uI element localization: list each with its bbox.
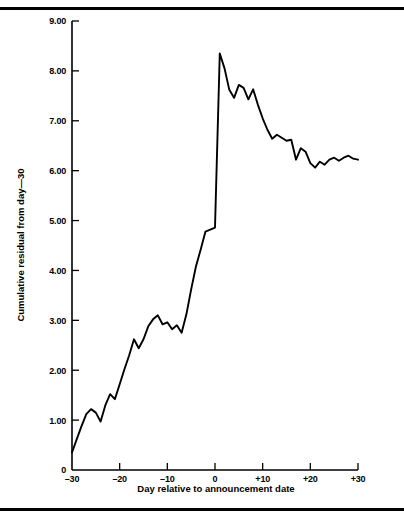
y-tick-label: 5.00 <box>49 216 66 226</box>
y-axis-ticks <box>72 21 79 420</box>
y-tick-label: 4.00 <box>49 266 66 276</box>
x-tick-label: +30 <box>351 474 366 484</box>
x-axis-ticks <box>120 463 358 470</box>
y-tick-label: 8.00 <box>49 66 66 76</box>
y-tick-label: 3.00 <box>49 316 66 326</box>
chart-plot-area: 01.002.003.004.005.006.007.008.009.00 –3… <box>0 0 404 500</box>
y-tick-label: 7.00 <box>49 116 66 126</box>
x-tick-label: –20 <box>112 474 127 484</box>
x-tick-label: –30 <box>65 474 80 484</box>
x-axis-title: Day relative to announcement date <box>137 483 294 494</box>
y-axis-title: Cumulative residual from day—30 <box>15 168 26 321</box>
y-tick-label: 9.00 <box>49 16 66 26</box>
data-series-line <box>72 53 358 452</box>
figure-container: 01.002.003.004.005.006.007.008.009.00 –3… <box>0 0 404 520</box>
y-axis: 01.002.003.004.005.006.007.008.009.00 <box>49 16 79 475</box>
bottom-horizontal-rule <box>0 508 404 511</box>
x-tick-label: +20 <box>303 474 318 484</box>
y-tick-label: 2.00 <box>49 366 66 376</box>
y-tick-label: 6.00 <box>49 166 66 176</box>
y-tick-label: 1.00 <box>49 416 66 426</box>
x-axis: –30–20–100+10+20+30 <box>65 463 366 484</box>
line-chart: 01.002.003.004.005.006.007.008.009.00 –3… <box>0 0 404 500</box>
y-axis-tick-labels: 01.002.003.004.005.006.007.008.009.00 <box>49 16 66 475</box>
